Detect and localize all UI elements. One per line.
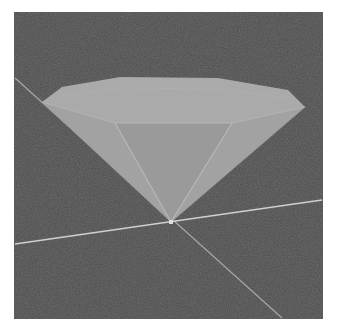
viewer-frame [0, 0, 338, 332]
origin-point [169, 220, 173, 224]
scene-canvas [14, 12, 323, 319]
3d-viewport[interactable] [14, 12, 323, 319]
